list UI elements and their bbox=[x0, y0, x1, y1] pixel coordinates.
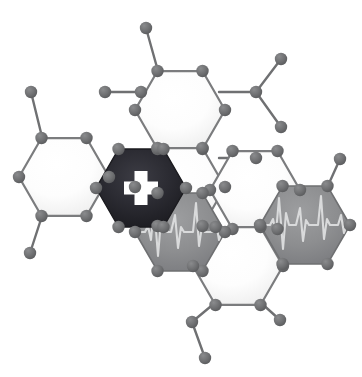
node-hex-vertex bbox=[321, 258, 333, 270]
node-hex-vertex bbox=[112, 143, 124, 155]
node-terminal-branch-down bbox=[275, 121, 287, 133]
node-hex-vertex bbox=[219, 104, 231, 116]
node-hex-vertex bbox=[209, 299, 221, 311]
node-hex-vertex bbox=[276, 180, 288, 192]
node-hex-vertex bbox=[103, 171, 115, 183]
node-hex-vertex bbox=[209, 221, 221, 233]
node-hex-vertex bbox=[187, 260, 199, 272]
node-hex-vertex bbox=[157, 143, 169, 155]
node-hex-vertex bbox=[344, 219, 356, 231]
node-hex-vertex bbox=[35, 210, 47, 222]
node-hex-vertex bbox=[219, 181, 231, 193]
node-hex-vertex bbox=[99, 86, 111, 98]
node-terminal-bottom-left bbox=[24, 247, 36, 259]
node-hex-vertex bbox=[151, 265, 163, 277]
node-hex-vertex bbox=[196, 65, 208, 77]
node-hex-vertex bbox=[271, 145, 283, 157]
node-hex-vertex bbox=[129, 226, 141, 238]
node-hex-vertex bbox=[196, 220, 208, 232]
node-hex-vertex bbox=[13, 171, 25, 183]
node-hex-vertex bbox=[80, 210, 92, 222]
node-hex-vertex bbox=[135, 86, 147, 98]
node-hex-vertex bbox=[157, 221, 169, 233]
node-terminal-top bbox=[140, 22, 152, 34]
node-hex-vertex bbox=[196, 187, 208, 199]
node-hex-vertex bbox=[151, 65, 163, 77]
node-terminal-branch-up bbox=[275, 53, 287, 65]
node-terminal-right-mid bbox=[250, 152, 262, 164]
node-hex-vertex bbox=[180, 182, 192, 194]
node-hex-vertex bbox=[276, 258, 288, 270]
node-hex-vertex bbox=[271, 223, 283, 235]
node-hex-vertex bbox=[129, 181, 141, 193]
node-hex-vertex bbox=[294, 184, 306, 196]
node-hex-vertex bbox=[321, 180, 333, 192]
node-hex-vertex bbox=[80, 132, 92, 144]
node-hex-vertex bbox=[226, 145, 238, 157]
node-terminal-ecg-right bbox=[334, 153, 346, 165]
molecular-hexagon-logo: Molecular Hexagon Medical Network Logo bbox=[0, 0, 362, 377]
node-terminal-top-left bbox=[25, 86, 37, 98]
node-terminal-bottom-right bbox=[274, 314, 286, 326]
node-chain-bottom-mid bbox=[186, 316, 198, 328]
node-hex-vertex bbox=[35, 132, 47, 144]
node-hex-vertex bbox=[151, 187, 163, 199]
node-hex-vertex bbox=[90, 182, 102, 194]
node-branch-hub bbox=[250, 86, 262, 98]
node-hex-vertex bbox=[196, 142, 208, 154]
node-hex-vertex bbox=[129, 104, 141, 116]
node-terminal-bottom-end bbox=[199, 352, 211, 364]
node-hex-vertex bbox=[254, 299, 266, 311]
node-hex-vertex bbox=[254, 219, 266, 231]
node-hex-vertex bbox=[112, 221, 124, 233]
